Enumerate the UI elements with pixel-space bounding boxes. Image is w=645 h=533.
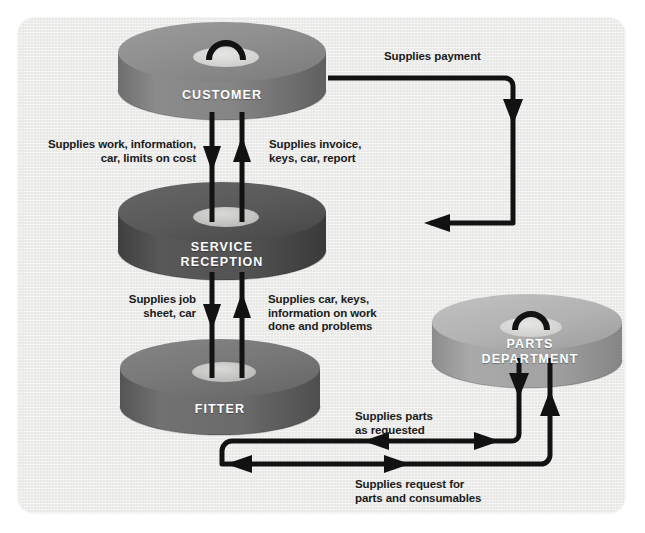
node-customer[interactable] [118,22,326,120]
node-label-service-reception: SERVICE RECEPTION [152,240,292,270]
flow-label-supplies-payment: Supplies payment [384,50,554,64]
diagram-canvas: CUSTOMER SERVICE RECEPTION FITTER PARTS … [0,0,645,533]
flow-label-customer-to-reception: Supplies work, information, car, limits … [18,138,196,165]
node-fitter[interactable] [120,339,320,435]
flow-label-reception-to-customer: Supplies invoice, keys, car, report [269,138,439,165]
flow-label-fitter-to-reception: Supplies car, keys, information on work … [268,293,438,334]
flow-label-reception-to-fitter: Supplies job sheet, car [40,293,196,320]
node-label-customer: CUSTOMER [152,88,292,103]
flow-label-supplies-parts: Supplies parts as requested [355,410,505,437]
flow-label-supplies-request: Supplies request for parts and consumabl… [355,478,555,505]
node-label-parts-department: PARTS DEPARTMENT [460,337,600,367]
flow-diagram-svg [0,0,645,533]
node-label-fitter: FITTER [150,402,290,417]
